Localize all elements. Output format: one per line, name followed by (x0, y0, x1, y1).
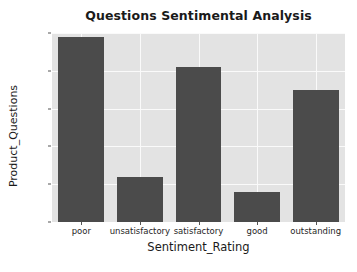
x-tick-label: satisfactory (174, 226, 224, 236)
y-tick-mark (48, 184, 51, 185)
bar (117, 177, 163, 222)
y-tick-mark (48, 70, 51, 71)
x-tick-label: outstanding (290, 226, 341, 236)
bar (176, 67, 222, 222)
y-axis-label: Product_Questions (7, 85, 20, 187)
plot-area (52, 33, 345, 222)
bar (293, 90, 339, 222)
x-axis-label: Sentiment_Rating (52, 240, 345, 254)
x-tick-mark (199, 222, 200, 225)
x-tick-mark (81, 222, 82, 225)
bar (58, 37, 104, 222)
y-tick-mark (48, 146, 51, 147)
x-tick-mark (257, 222, 258, 225)
x-tick-mark (316, 222, 317, 225)
y-tick-mark (48, 108, 51, 109)
x-tick-label: poor (72, 226, 91, 236)
chart-figure: Questions Sentimental Analysis Product_Q… (0, 0, 357, 272)
y-tick-mark (48, 33, 51, 34)
x-tick-label: good (246, 226, 267, 236)
x-tick-label: unsatisfactory (110, 226, 170, 236)
chart-title: Questions Sentimental Analysis (52, 8, 345, 23)
bars-group (52, 33, 345, 222)
bar (234, 192, 280, 222)
x-tick-mark (140, 222, 141, 225)
y-tick-mark (48, 222, 51, 223)
